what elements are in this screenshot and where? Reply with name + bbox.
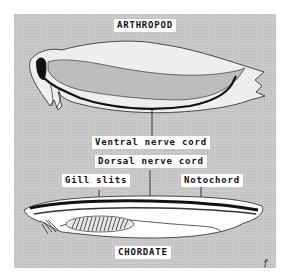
arthropod-figure	[30, 41, 265, 113]
chordate-figure	[24, 196, 263, 238]
ventral-nerve-cord-label: Ventral nerve cord	[92, 136, 210, 149]
notochord-label: Notochord	[181, 174, 243, 187]
arthropod-title: ARTHROPOD	[114, 19, 176, 32]
dorsal-nerve-cord-label: Dorsal nerve cord	[95, 155, 207, 168]
artist-signature: ꝭ	[264, 256, 268, 267]
chordate-title: CHORDATE	[115, 246, 171, 259]
gill-slits-label: Gill slits	[62, 174, 130, 187]
